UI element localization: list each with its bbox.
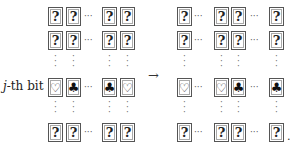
unknown-card: ? bbox=[214, 7, 229, 26]
question-mark-icon: ? bbox=[67, 32, 80, 49]
heart-icon: ♡ bbox=[49, 79, 62, 96]
unknown-card: ? bbox=[269, 31, 284, 50]
heart-icon: ♡ bbox=[215, 79, 228, 96]
vertical-ellipsis: ··· bbox=[183, 54, 185, 69]
vertical-ellipsis: ··· bbox=[237, 54, 239, 69]
horizontal-ellipsis: ··· bbox=[84, 82, 93, 92]
question-mark-icon: ? bbox=[67, 8, 80, 25]
vertical-ellipsis: ··· bbox=[275, 100, 277, 115]
question-mark-icon: ? bbox=[121, 8, 134, 25]
question-mark-icon: ? bbox=[49, 32, 62, 49]
heart-icon: ♡ bbox=[178, 79, 191, 96]
unknown-card: ? bbox=[177, 31, 192, 50]
vertical-ellipsis: ··· bbox=[220, 54, 222, 69]
horizontal-ellipsis: ··· bbox=[84, 127, 93, 137]
horizontal-ellipsis: ··· bbox=[84, 35, 93, 45]
horizontal-ellipsis: ··· bbox=[194, 11, 203, 21]
question-mark-icon: ? bbox=[49, 124, 62, 141]
unknown-card: ? bbox=[102, 123, 117, 142]
heart-card: ♡ bbox=[177, 78, 192, 97]
horizontal-ellipsis: ··· bbox=[250, 11, 259, 21]
unknown-card: ? bbox=[120, 31, 135, 50]
club-icon: ♣ bbox=[103, 79, 116, 96]
club-card: ♣ bbox=[66, 78, 81, 97]
question-mark-icon: ? bbox=[121, 32, 134, 49]
heart-icon: ♡ bbox=[121, 79, 134, 96]
horizontal-ellipsis: ··· bbox=[84, 11, 93, 21]
vertical-ellipsis: ··· bbox=[72, 100, 74, 115]
horizontal-ellipsis: ··· bbox=[194, 82, 203, 92]
question-mark-icon: ? bbox=[49, 8, 62, 25]
question-mark-icon: ? bbox=[270, 124, 283, 141]
unknown-card: ? bbox=[48, 31, 63, 50]
right-arrow-icon: → bbox=[148, 68, 159, 83]
club-card: ♣ bbox=[231, 78, 246, 97]
vertical-ellipsis: ··· bbox=[108, 54, 110, 69]
unknown-card: ? bbox=[214, 31, 229, 50]
unknown-card: ? bbox=[231, 7, 246, 26]
vertical-ellipsis: ··· bbox=[72, 54, 74, 69]
horizontal-ellipsis: ··· bbox=[194, 35, 203, 45]
club-icon: ♣ bbox=[232, 79, 245, 96]
trailing-period: . bbox=[287, 130, 291, 143]
vertical-ellipsis: ··· bbox=[108, 100, 110, 115]
question-mark-icon: ? bbox=[178, 8, 191, 25]
unknown-card: ? bbox=[102, 31, 117, 50]
vertical-ellipsis: ··· bbox=[126, 100, 128, 115]
question-mark-icon: ? bbox=[232, 124, 245, 141]
unknown-card: ? bbox=[269, 123, 284, 142]
question-mark-icon: ? bbox=[178, 124, 191, 141]
vertical-ellipsis: ··· bbox=[275, 54, 277, 69]
unknown-card: ? bbox=[214, 123, 229, 142]
heart-card: ♡ bbox=[48, 78, 63, 97]
unknown-card: ? bbox=[231, 123, 246, 142]
unknown-card: ? bbox=[66, 7, 81, 26]
unknown-card: ? bbox=[177, 123, 192, 142]
unknown-card: ? bbox=[66, 31, 81, 50]
horizontal-ellipsis: ··· bbox=[250, 127, 259, 137]
unknown-card: ? bbox=[177, 7, 192, 26]
question-mark-icon: ? bbox=[178, 32, 191, 49]
vertical-ellipsis: ··· bbox=[54, 54, 56, 69]
question-mark-icon: ? bbox=[215, 32, 228, 49]
club-icon: ♣ bbox=[270, 79, 283, 96]
question-mark-icon: ? bbox=[215, 8, 228, 25]
question-mark-icon: ? bbox=[103, 32, 116, 49]
question-mark-icon: ? bbox=[103, 8, 116, 25]
club-icon: ♣ bbox=[67, 79, 80, 96]
club-card: ♣ bbox=[269, 78, 284, 97]
question-mark-icon: ? bbox=[232, 8, 245, 25]
horizontal-ellipsis: ··· bbox=[194, 127, 203, 137]
unknown-card: ? bbox=[102, 7, 117, 26]
unknown-card: ? bbox=[48, 123, 63, 142]
question-mark-icon: ? bbox=[270, 8, 283, 25]
question-mark-icon: ? bbox=[215, 124, 228, 141]
unknown-card: ? bbox=[120, 123, 135, 142]
question-mark-icon: ? bbox=[270, 32, 283, 49]
question-mark-icon: ? bbox=[121, 124, 134, 141]
question-mark-icon: ? bbox=[103, 124, 116, 141]
vertical-ellipsis: ··· bbox=[220, 100, 222, 115]
vertical-ellipsis: ··· bbox=[54, 100, 56, 115]
unknown-card: ? bbox=[231, 31, 246, 50]
question-mark-icon: ? bbox=[67, 124, 80, 141]
horizontal-ellipsis: ··· bbox=[250, 35, 259, 45]
unknown-card: ? bbox=[66, 123, 81, 142]
row-label-text: -th bit bbox=[7, 79, 44, 93]
unknown-card: ? bbox=[269, 7, 284, 26]
heart-card: ♡ bbox=[214, 78, 229, 97]
unknown-card: ? bbox=[120, 7, 135, 26]
heart-card: ♡ bbox=[120, 78, 135, 97]
vertical-ellipsis: ··· bbox=[126, 54, 128, 69]
vertical-ellipsis: ··· bbox=[237, 100, 239, 115]
unknown-card: ? bbox=[48, 7, 63, 26]
row-label-j-th-bit: j-th bit bbox=[3, 79, 44, 93]
vertical-ellipsis: ··· bbox=[183, 100, 185, 115]
question-mark-icon: ? bbox=[232, 32, 245, 49]
club-card: ♣ bbox=[102, 78, 117, 97]
horizontal-ellipsis: ··· bbox=[250, 82, 259, 92]
